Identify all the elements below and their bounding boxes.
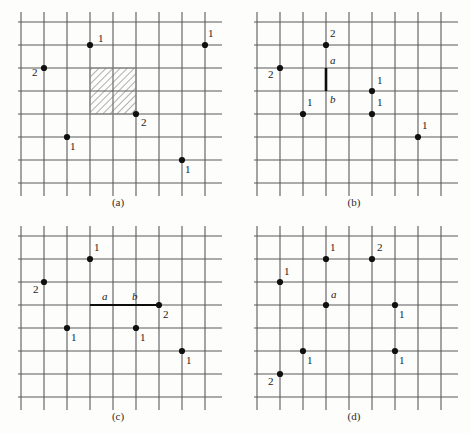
vertex-dot[interactable] — [41, 279, 47, 285]
vertex-dot[interactable] — [300, 111, 306, 117]
vertex-label: 1 — [186, 354, 192, 366]
panel-d: 1 2 1 a 1 1 1 2 — [246, 222, 464, 414]
vertex-dot[interactable] — [133, 111, 139, 117]
panel-b: a b 2 2 1 1 1 1 — [246, 8, 464, 200]
vertex-dot[interactable] — [415, 134, 421, 140]
panel-b-grid — [254, 12, 458, 196]
panel-c-caption: (c) — [98, 410, 138, 422]
vertex-label: 1 — [377, 74, 383, 86]
vertex-label: 1 — [94, 241, 100, 253]
vertex-label: 1 — [377, 96, 383, 108]
panel-a-svg: 1 1 2 2 1 1 — [10, 8, 228, 200]
vertex-label: 1 — [307, 96, 313, 108]
vertex-label: 1 — [422, 119, 428, 131]
vertex-label: 1 — [185, 163, 191, 175]
panel-a: 1 1 2 2 1 1 — [10, 8, 228, 200]
vertex-label: 2 — [163, 308, 169, 320]
vertex-label: 2 — [268, 375, 274, 387]
vertex-dot[interactable] — [179, 348, 185, 354]
panel-d-vertices: 1 2 1 a 1 1 1 2 — [268, 241, 405, 387]
vertex-label: 1 — [284, 265, 290, 277]
vertex-label: 1 — [208, 27, 214, 39]
vertex-dot[interactable] — [202, 42, 208, 48]
vertex-label: 1 — [307, 354, 313, 366]
hatched-square — [90, 68, 136, 114]
vertex-label: 2 — [268, 68, 274, 80]
vertex-label: 1 — [399, 308, 405, 320]
vertex-dot[interactable] — [369, 256, 375, 262]
vertex-label: 1 — [98, 32, 104, 44]
vertex-dot[interactable] — [64, 325, 70, 331]
vertex-label: 1 — [330, 241, 336, 253]
vertex-label: 2 — [377, 241, 383, 253]
vertex-label: 2 — [33, 283, 39, 295]
vertex-dot[interactable] — [277, 65, 283, 71]
vertex-dot[interactable] — [369, 88, 375, 94]
edge-label-b: b — [330, 93, 336, 105]
panel-b-vertices: 2 2 1 1 1 1 — [268, 27, 428, 140]
vertex-dot[interactable] — [369, 111, 375, 117]
vertex-dot[interactable] — [392, 302, 398, 308]
panel-c-grid — [18, 226, 222, 410]
vertex-dot[interactable] — [323, 302, 329, 308]
panel-d-svg: 1 2 1 a 1 1 1 2 — [246, 222, 464, 414]
vertex-label: 2 — [141, 116, 147, 128]
panel-c-vertices: 1 2 2 1 1 1 — [33, 241, 192, 366]
panel-b-svg: a b 2 2 1 1 1 1 — [246, 8, 464, 200]
edge-label-a: a — [102, 290, 108, 302]
panel-a-caption: (a) — [98, 196, 138, 208]
vertex-dot[interactable] — [277, 279, 283, 285]
vertex-dot[interactable] — [133, 325, 139, 331]
vertex-dot[interactable] — [87, 42, 93, 48]
vertex-label: 1 — [399, 354, 405, 366]
panel-b-caption: (b) — [334, 196, 374, 208]
vertex-dot[interactable] — [87, 256, 93, 262]
vertex-label: 2 — [32, 66, 38, 78]
vertex-label: 1 — [140, 331, 146, 343]
vertex-dot[interactable] — [156, 302, 162, 308]
figure-container: 1 1 2 2 1 1 (a) — [0, 0, 471, 433]
vertex-label: 1 — [71, 331, 77, 343]
vertex-dot[interactable] — [323, 42, 329, 48]
edge-label-a: a — [330, 54, 336, 66]
vertex-dot[interactable] — [300, 348, 306, 354]
panel-d-grid — [254, 226, 458, 410]
vertex-label-a: a — [331, 288, 337, 300]
vertex-label: 1 — [70, 140, 76, 152]
vertex-label: 2 — [330, 27, 336, 39]
panel-c-svg: a b 1 2 2 1 1 1 — [10, 222, 228, 414]
edge-label-b: b — [132, 290, 138, 302]
vertex-dot[interactable] — [392, 348, 398, 354]
panel-d-caption: (d) — [334, 410, 374, 422]
panel-c: a b 1 2 2 1 1 1 — [10, 222, 228, 414]
vertex-dot[interactable] — [41, 65, 47, 71]
vertex-dot[interactable] — [277, 371, 283, 377]
vertex-dot[interactable] — [323, 256, 329, 262]
